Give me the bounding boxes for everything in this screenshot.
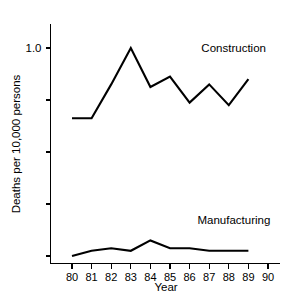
x-tick-label: 80	[66, 271, 78, 283]
x-tick-label: 87	[203, 271, 215, 283]
series-line-construction	[72, 48, 248, 118]
chart-canvas: 1.0 8081828384858687888990 ConstructionM…	[0, 0, 303, 304]
y-axis-ticks	[46, 48, 51, 256]
series-label-manufacturing: Manufacturing	[197, 214, 270, 226]
x-tick-label: 89	[242, 271, 254, 283]
x-tick-label: 82	[105, 271, 117, 283]
line-chart: 1.0 8081828384858687888990 ConstructionM…	[0, 0, 303, 304]
x-tick-label: 88	[223, 271, 235, 283]
x-tick-label: 90	[262, 271, 274, 283]
chart-series-labels: ConstructionManufacturing	[197, 42, 270, 226]
y-tick-label: 1.0	[26, 42, 42, 54]
x-tick-label: 86	[183, 271, 195, 283]
x-tick-label: 81	[85, 271, 97, 283]
series-line-manufacturing	[72, 240, 248, 256]
x-tick-label: 83	[125, 271, 137, 283]
x-axis-ticks	[72, 264, 268, 269]
x-axis-title: Year	[154, 281, 177, 293]
y-axis-title: Deaths per 10,000 persons	[10, 74, 22, 213]
chart-axes	[51, 24, 281, 264]
y-axis-tick-labels: 1.0	[26, 42, 42, 54]
series-label-construction: Construction	[201, 42, 266, 54]
